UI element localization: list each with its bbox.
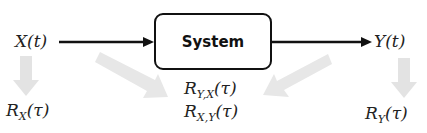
cross-correlation-yx-label: RY,X(τ) <box>184 78 237 101</box>
cross-correlation-xy-label: RX,Y(τ) <box>184 101 238 124</box>
output-autocorrelation-label: RY(τ) <box>365 103 408 126</box>
input-signal-label: X(t) <box>15 31 47 51</box>
gray-down-arrow-icon <box>13 56 39 96</box>
input-autocorrelation-label: RX(τ) <box>6 100 49 123</box>
output-signal-label: Y(t) <box>374 31 405 51</box>
system-label: System <box>182 33 244 51</box>
gray-down-arrow-icon <box>391 58 417 98</box>
input-arrow <box>59 37 154 47</box>
system-diagram: X(t) System Y(t) RX(τ) RY(τ) RY,X(τ) RX,… <box>0 0 427 133</box>
output-arrow <box>272 37 372 47</box>
gray-diagonal-arrow-icon <box>263 54 332 97</box>
system-block: System <box>154 13 272 70</box>
